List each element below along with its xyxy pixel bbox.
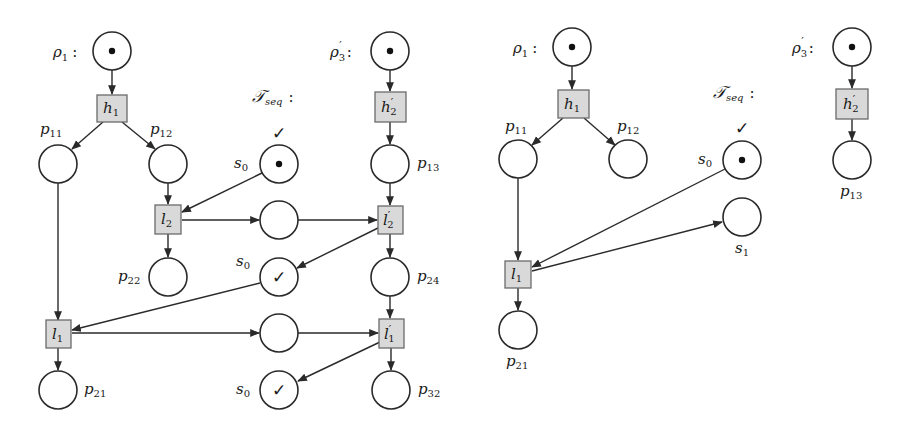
place-intermediate — [260, 201, 298, 239]
token-dot — [849, 44, 855, 50]
rho1-label: ρ1: — [52, 43, 77, 63]
arc-s0-l1 — [532, 169, 725, 267]
arc-l1p-s0 — [298, 342, 380, 381]
place-p12 — [149, 145, 187, 183]
rho3-prime-label: ρ3′: — [329, 39, 352, 63]
check-mark: ✓ — [272, 380, 286, 400]
token-dot — [569, 44, 575, 50]
place-p11-label: p11 — [40, 120, 62, 139]
place-intermediate — [260, 314, 298, 352]
place-p13 — [833, 141, 871, 179]
place-p32 — [372, 371, 410, 409]
place-p12-label: p12 — [150, 120, 172, 139]
arc-l1-s1 — [532, 222, 722, 271]
place-s0-label: s0 — [236, 252, 250, 271]
place-p21-label: p21 — [506, 352, 528, 371]
place-p13 — [371, 145, 409, 183]
place-s0-label: s0 — [698, 150, 712, 169]
check-mark: ✓ — [272, 267, 286, 287]
arc-h1-p11 — [532, 118, 563, 145]
place-p11 — [39, 145, 77, 183]
place-p11 — [499, 140, 537, 178]
place-p11-label: p11 — [505, 117, 527, 136]
arc-h1-p12 — [584, 118, 615, 145]
place-p22 — [149, 258, 187, 296]
token-dot — [276, 161, 282, 167]
arc-s0-l2 — [182, 173, 262, 212]
place-p21 — [39, 371, 77, 409]
place-p24-label: p24 — [417, 267, 439, 286]
token-dot — [109, 48, 115, 54]
arc-l2p-s0 — [297, 228, 378, 268]
rho3-prime-label: ρ3′: — [791, 35, 814, 59]
token-dot — [387, 48, 393, 54]
place-s1 — [723, 198, 761, 236]
check-mark: ✓ — [735, 118, 749, 138]
place-s0-label: s0 — [234, 154, 248, 173]
arc-h1-p11 — [72, 122, 103, 149]
place-s0-label: s0 — [236, 380, 250, 399]
right-diagram: ρ1: h1 p11 p12 𝒯seq: ✓ s0 ρ3′: h′2 p13 s… — [499, 28, 871, 371]
rho1-label: ρ1: — [512, 39, 537, 59]
place-p32-label: p32 — [418, 380, 440, 399]
check-mark: ✓ — [272, 123, 286, 143]
petri-net-figure: ρ1: h1 p11 p12 𝒯seq: ✓ s0 ρ3′: h′2 p13 l… — [0, 0, 905, 429]
place-p13-label: p13 — [417, 154, 439, 173]
place-p12 — [609, 140, 647, 178]
place-p21-label: p21 — [84, 380, 106, 399]
tseq-label: 𝒯seq: — [713, 82, 755, 103]
place-p13-label: p13 — [840, 182, 862, 201]
tseq-label: 𝒯seq: — [252, 86, 294, 107]
place-p12-label: p12 — [617, 117, 639, 136]
left-diagram: ρ1: h1 p11 p12 𝒯seq: ✓ s0 ρ3′: h′2 p13 l… — [39, 32, 440, 409]
place-p22-label: p22 — [118, 267, 140, 286]
token-dot — [739, 157, 745, 163]
place-p21 — [499, 311, 537, 349]
place-p24 — [371, 258, 409, 296]
place-s1-label: s1 — [735, 239, 749, 258]
